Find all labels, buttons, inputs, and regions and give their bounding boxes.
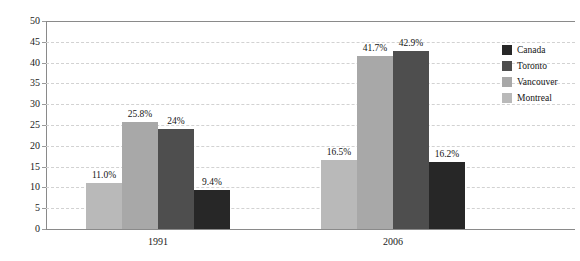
y-axis-tick-45: 45: [14, 37, 40, 47]
y-axis-tick-40: 40: [14, 58, 40, 68]
legend-swatch-montreal: [502, 93, 512, 103]
legend-swatch-vancouver: [502, 77, 512, 87]
plot-area: 11.0%25.8%24%9.4%16.5%41.7%42.9%16.2%: [46, 21, 575, 229]
y-axis-tick-30: 30: [14, 99, 40, 109]
legend-swatch-toronto: [502, 61, 512, 71]
bar-toronto-2006[interactable]: [393, 51, 429, 229]
legend-item-montreal[interactable]: Montreal: [502, 90, 578, 106]
y-axis-tick-0: 0: [14, 224, 40, 234]
gridline-45: [46, 42, 575, 43]
legend-swatch-canada: [502, 45, 512, 55]
legend-label-toronto: Toronto: [517, 61, 547, 71]
bar-toronto-1991[interactable]: [158, 129, 194, 229]
bar-value-label-canada-1991: 9.4%: [190, 177, 234, 187]
legend-item-toronto[interactable]: Toronto: [502, 58, 578, 74]
gridline-40: [46, 63, 575, 64]
legend-item-vancouver[interactable]: Vancouver: [502, 74, 578, 90]
bar-value-label-toronto-2006: 42.9%: [389, 38, 433, 48]
bar-canada-1991[interactable]: [194, 190, 230, 229]
y-axis-tick-5: 5: [14, 203, 40, 213]
x-axis-label-1991: 1991: [128, 236, 188, 247]
bar-canada-2006[interactable]: [429, 162, 465, 229]
bar-montreal-1991[interactable]: [86, 183, 122, 229]
y-axis-tick-35: 35: [14, 78, 40, 88]
chart-legend: CanadaTorontoVancouverMontreal: [502, 42, 578, 106]
x-axis-line: [46, 229, 575, 230]
bar-value-label-montreal-1991: 11.0%: [82, 170, 126, 180]
y-axis-tick-15: 15: [14, 162, 40, 172]
y-axis-tick-25: 25: [14, 120, 40, 130]
bar-value-label-canada-2006: 16.2%: [425, 149, 469, 159]
bar-value-label-montreal-2006: 16.5%: [317, 147, 361, 157]
y-axis-tick-10: 10: [14, 182, 40, 192]
legend-label-montreal: Montreal: [517, 93, 552, 103]
bar-vancouver-2006[interactable]: [357, 56, 393, 229]
y-axis-tick-20: 20: [14, 141, 40, 151]
bar-value-label-toronto-1991: 24%: [154, 116, 198, 126]
gridline-35: [46, 83, 575, 84]
gridline-30: [46, 104, 575, 105]
bar-vancouver-1991[interactable]: [122, 122, 158, 229]
legend-item-canada[interactable]: Canada: [502, 42, 578, 58]
bar-chart: 50454035302520151050 11.0%25.8%24%9.4%16…: [0, 0, 580, 261]
x-axis-label-2006: 2006: [363, 236, 423, 247]
legend-label-canada: Canada: [517, 45, 546, 55]
legend-label-vancouver: Vancouver: [517, 77, 558, 87]
y-axis-tick-50: 50: [14, 16, 40, 26]
bar-montreal-2006[interactable]: [321, 160, 357, 229]
